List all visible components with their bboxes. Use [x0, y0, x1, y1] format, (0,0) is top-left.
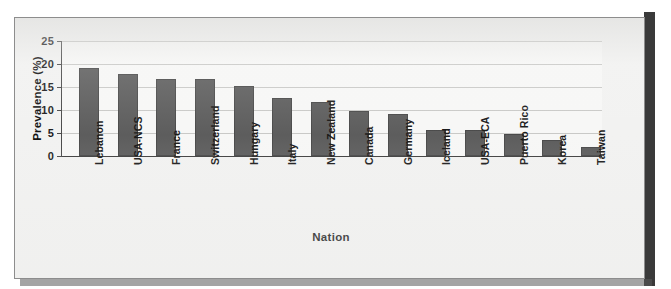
y-tick-label: 10 — [41, 104, 54, 116]
page-shadow-bottom — [20, 279, 652, 286]
x-category-label: Puerto Rico — [518, 105, 530, 165]
plot-area: 0510152025LebanonUSA-NCSFranceSwitzerlan… — [61, 41, 602, 157]
y-tick-label: 20 — [41, 58, 54, 70]
x-category-label: France — [170, 130, 182, 165]
y-tick-mark — [57, 87, 62, 88]
y-tick-label: 0 — [48, 150, 54, 162]
x-category-label: USA-ECA — [479, 116, 491, 165]
gridline — [62, 87, 602, 88]
chart-figure-frame: Prevalence (%) 0510152025LebanonUSA-NCSF… — [14, 17, 645, 279]
y-tick-mark — [57, 110, 62, 111]
x-category-label: Korea — [556, 135, 568, 165]
x-category-label: Canada — [363, 126, 375, 165]
x-category-label: Italy — [286, 143, 298, 165]
y-tick-label: 25 — [41, 35, 54, 47]
y-tick-label: 15 — [41, 81, 54, 93]
y-tick-mark — [57, 156, 62, 157]
y-tick-label: 5 — [48, 127, 54, 139]
page-shadow-right — [644, 12, 655, 286]
x-category-label: New Zealand — [325, 100, 337, 165]
figure-root: Prevalence (%) 0510152025LebanonUSA-NCSF… — [0, 0, 671, 289]
gridline — [62, 41, 602, 42]
gridline — [62, 64, 602, 65]
x-category-label: Lebanon — [93, 121, 105, 165]
x-category-label: Germany — [402, 119, 414, 165]
x-category-label: Switzerland — [209, 106, 221, 165]
y-tick-mark — [57, 41, 62, 42]
x-category-label: USA-NCS — [132, 116, 144, 165]
x-category-label: Iceland — [440, 128, 452, 165]
x-category-label: Hungary — [248, 122, 260, 165]
y-tick-mark — [57, 133, 62, 134]
x-category-label: Taiwan — [595, 130, 607, 165]
y-tick-mark — [57, 64, 62, 65]
x-axis-title: Nation — [61, 231, 601, 243]
